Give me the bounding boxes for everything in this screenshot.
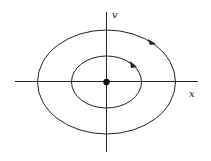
outer-orbit-arrow-icon [148,39,156,45]
v-axis-label: v [112,10,118,20]
equilibrium-point [103,79,109,85]
x-axis-label: x [189,89,195,99]
inner-orbit-arrow-icon [130,61,137,68]
phase-portrait [0,0,211,161]
